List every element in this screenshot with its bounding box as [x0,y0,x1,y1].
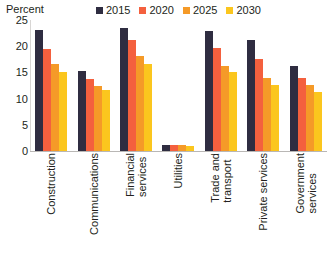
legend-label: 2025 [193,4,217,16]
x-axis-label-line: Trade and [209,153,221,203]
bar-2015 [35,30,43,151]
x-axis-labels: ConstructionCommunicationsFinancialservi… [30,153,327,259]
bar-2020 [213,48,221,151]
x-axis-label-group: Utilities [157,153,199,259]
x-axis-label-line: Financial [124,153,136,197]
bar-2025 [94,86,102,151]
x-axis-label-line: Private services [257,153,269,231]
x-axis-label-line: services [306,153,318,214]
y-axis-tick: 20 [2,41,28,52]
x-axis-label: Construction [45,153,57,215]
x-axis-label-group: Trade andtransport [200,153,242,259]
bar-2030 [229,72,237,151]
bar-chart: Percent 2015202020252030 2520151050 Cons… [0,0,331,261]
legend-item-2025[interactable]: 2025 [183,4,217,16]
bar-group [157,20,199,151]
bar-2020 [128,40,136,151]
bar-2020 [86,79,94,151]
y-axis-tick: 10 [2,93,28,104]
bar-group [285,20,327,151]
bar-2030 [314,92,322,151]
x-axis-label: Financialservices [124,153,148,197]
x-axis-label-line: services [136,153,148,197]
square-swatch [139,7,146,14]
square-swatch [96,7,103,14]
legend-item-2030[interactable]: 2030 [226,4,260,16]
x-axis-label-group: Communications [72,153,114,259]
x-axis-label-line: Utilities [172,153,184,188]
bar-2015 [247,40,255,151]
x-axis-label-group: Governmentservices [285,153,327,259]
bar-2025 [51,64,59,151]
bar-2030 [59,72,67,151]
y-axis-tick: 15 [2,67,28,78]
bar-2025 [263,78,271,151]
y-axis-tick: 5 [2,119,28,130]
bar-2015 [205,31,213,151]
x-axis-label-line: Construction [45,153,57,215]
plot-area: 2520151050 [0,20,331,152]
bar-2020 [255,59,263,151]
x-axis-label-line: Communications [88,153,100,235]
bar-2025 [221,66,229,151]
bar-2020 [298,78,306,151]
bar-2030 [102,90,110,151]
x-axis-label: Private services [257,153,269,231]
legend-label: 2015 [106,4,130,16]
x-axis-label-group: Financialservices [115,153,157,259]
x-axis-label: Governmentservices [294,153,318,214]
square-swatch [183,7,190,14]
x-axis-label: Trade andtransport [209,153,233,203]
bar-groups [30,20,327,151]
bar-group [200,20,242,151]
x-axis-label: Communications [88,153,100,235]
bars-area [30,20,327,152]
x-axis-line [30,151,327,152]
y-axis-tick: 25 [2,15,28,26]
bar-2030 [271,85,279,151]
bar-2020 [43,49,51,151]
x-axis-label: Utilities [172,153,184,188]
bar-2015 [290,66,298,151]
bar-group [115,20,157,151]
y-axis-tick: 0 [2,146,28,157]
legend-item-2015[interactable]: 2015 [96,4,130,16]
square-swatch [226,7,233,14]
bar-group [242,20,284,151]
legend-label: 2030 [236,4,260,16]
x-axis-label-line: Government [294,153,306,214]
bar-2025 [306,85,314,151]
bar-2015 [78,71,86,151]
bar-group [72,20,114,151]
bar-2015 [120,28,128,151]
bar-2025 [136,56,144,151]
y-axis: 2520151050 [0,20,28,152]
bar-group [30,20,72,151]
legend-item-2020[interactable]: 2020 [139,4,173,16]
x-axis-label-group: Construction [30,153,72,259]
chart-header: Percent 2015202020252030 [0,0,331,20]
x-axis-label-line: transport [221,153,233,203]
chart-legend: 2015202020252030 [96,4,261,16]
bar-2030 [144,64,152,151]
x-axis-label-group: Private services [242,153,284,259]
legend-label: 2020 [149,4,173,16]
